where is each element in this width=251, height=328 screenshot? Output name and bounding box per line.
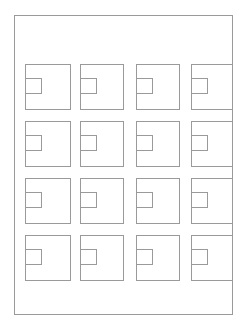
diagram-page xyxy=(0,0,251,328)
outer-frame xyxy=(14,15,233,315)
